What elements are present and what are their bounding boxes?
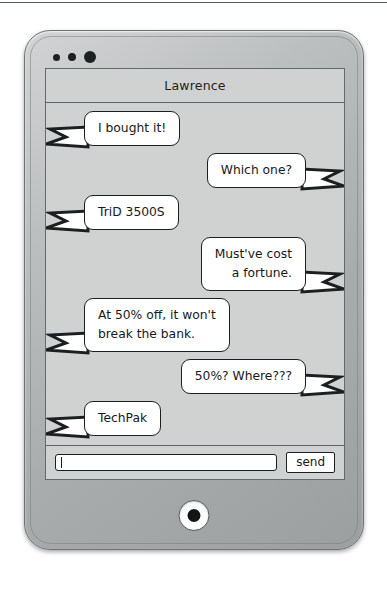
message-row: 50%? Where??? — [46, 359, 344, 394]
message-line: a fortune. — [215, 264, 292, 283]
message-line: Must've cost — [215, 245, 292, 264]
tablet-device-frame: Lawrence I bought it!Which one?TriD 3500… — [24, 30, 364, 550]
message-row: At 50% off, it won'tbreak the bank. — [46, 298, 344, 352]
message-line: At 50% off, it won't — [98, 306, 216, 325]
message-bubble-left[interactable]: TechPak — [84, 401, 161, 436]
chat-header: Lawrence — [46, 69, 344, 103]
page-top-rule — [0, 2, 387, 3]
camera-dot-medium-icon — [68, 53, 76, 61]
bubble-tail-icon — [300, 269, 344, 295]
message-line: TriD 3500S — [98, 203, 165, 222]
send-button[interactable]: send — [286, 452, 335, 473]
message-bubble-left[interactable]: At 50% off, it won'tbreak the bank. — [84, 298, 230, 352]
camera-dot-large-icon — [84, 51, 96, 63]
message-line: TechPak — [98, 409, 147, 428]
message-bubble-right[interactable]: Which one? — [207, 153, 306, 188]
message-line: 50%? Where??? — [195, 367, 292, 386]
message-bubble-left[interactable]: TriD 3500S — [84, 195, 179, 230]
message-row: TechPak — [46, 401, 344, 436]
home-button[interactable] — [179, 500, 210, 531]
message-row: Must've costa fortune. — [46, 237, 344, 291]
message-line: Which one? — [221, 161, 292, 180]
message-bubble-left[interactable]: I bought it! — [84, 111, 180, 146]
home-button-dot-icon — [188, 509, 201, 522]
message-row: TriD 3500S — [46, 195, 344, 230]
bubble-tail-icon — [300, 166, 344, 192]
camera-dot-small-icon — [53, 54, 60, 61]
message-line: break the bank. — [98, 325, 216, 344]
contact-name: Lawrence — [164, 78, 226, 93]
bubble-tail-icon — [300, 372, 344, 398]
composer-bar: send — [46, 445, 344, 479]
message-bubble-right[interactable]: Must've costa fortune. — [201, 237, 306, 291]
message-line: I bought it! — [98, 119, 166, 138]
device-screen: Lawrence I bought it!Which one?TriD 3500… — [45, 68, 345, 480]
message-bubble-right[interactable]: 50%? Where??? — [181, 359, 306, 394]
text-caret-icon — [61, 457, 62, 468]
message-row: Which one? — [46, 153, 344, 188]
sensor-dots-group — [53, 51, 96, 63]
message-input[interactable] — [55, 454, 277, 471]
message-row: I bought it! — [46, 111, 344, 146]
message-list[interactable]: I bought it!Which one?TriD 3500SMust've … — [46, 103, 344, 445]
